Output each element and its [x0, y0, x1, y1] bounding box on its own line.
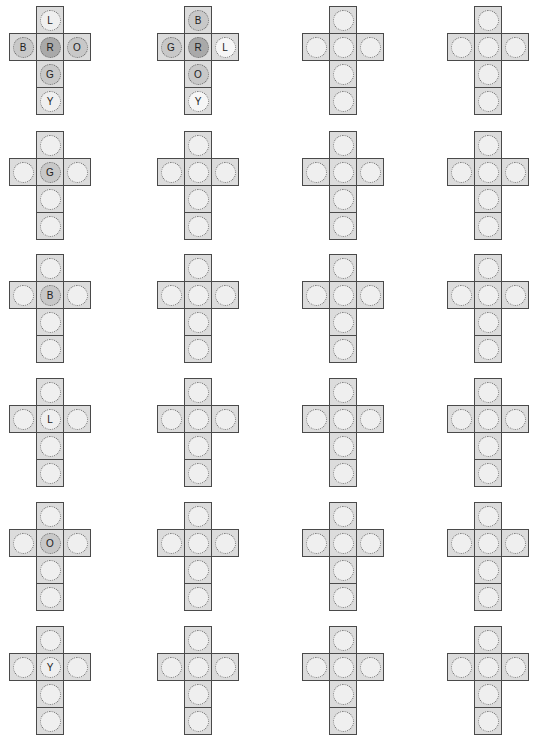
- face-circle: [333, 560, 354, 581]
- face-circle: [333, 312, 354, 333]
- net-face-left: [157, 529, 185, 557]
- net-face-top: [474, 254, 502, 282]
- net-face-below: [36, 680, 64, 708]
- cube-net: [157, 254, 241, 366]
- face-circle: Y: [188, 91, 209, 112]
- net-face-right: [63, 653, 91, 681]
- face-circle: [505, 285, 526, 306]
- face-circle: [161, 162, 182, 183]
- face-circle: [333, 64, 354, 85]
- net-face-below: [36, 308, 64, 336]
- face-circle: [188, 285, 209, 306]
- face-circle: [188, 436, 209, 457]
- net-face-center: [329, 653, 357, 681]
- face-circle: [478, 285, 499, 306]
- face-circle: [451, 409, 472, 430]
- net-face-right: [63, 529, 91, 557]
- face-circle: [333, 189, 354, 210]
- net-face-below: [329, 432, 357, 460]
- net-face-left: [157, 405, 185, 433]
- face-circle: [333, 382, 354, 403]
- net-face-bottom: [474, 459, 502, 487]
- net-face-center: [329, 281, 357, 309]
- net-face-bottom: [36, 707, 64, 735]
- cube-net: [447, 254, 531, 366]
- net-face-left: [9, 158, 37, 186]
- net-face-bottom: [36, 335, 64, 363]
- net-face-right: [211, 405, 239, 433]
- face-circle: [40, 382, 61, 403]
- face-circle: [13, 162, 34, 183]
- face-circle: [451, 533, 472, 554]
- net-face-left: [302, 405, 330, 433]
- net-face-left: [447, 405, 475, 433]
- net-face-bottom: [329, 335, 357, 363]
- net-face-top: [329, 378, 357, 406]
- face-circle: [306, 162, 327, 183]
- face-circle: [161, 533, 182, 554]
- cube-net: [302, 6, 386, 118]
- net-face-center: [329, 529, 357, 557]
- net-face-top: [184, 626, 212, 654]
- cube-net: LBROGY: [9, 6, 93, 118]
- net-face-center: [474, 405, 502, 433]
- cube-net: [302, 626, 386, 738]
- face-circle: [333, 463, 354, 484]
- net-face-below: [474, 60, 502, 88]
- net-face-right: [356, 158, 384, 186]
- face-circle: [188, 135, 209, 156]
- net-face-bottom: [36, 212, 64, 240]
- net-face-right: [63, 281, 91, 309]
- face-circle: [333, 91, 354, 112]
- cube-net: [447, 6, 531, 118]
- net-face-bottom: [184, 335, 212, 363]
- net-face-top: L: [36, 6, 64, 34]
- net-face-top: [474, 626, 502, 654]
- cube-net: [302, 254, 386, 366]
- net-face-right: [501, 653, 529, 681]
- face-circle: [478, 630, 499, 651]
- net-face-center: R: [184, 33, 212, 61]
- face-circle: [333, 711, 354, 732]
- face-circle: [188, 162, 209, 183]
- net-face-left: [447, 653, 475, 681]
- face-circle: [40, 587, 61, 608]
- net-face-left: [447, 158, 475, 186]
- face-circle: [360, 285, 381, 306]
- net-face-below: [184, 556, 212, 584]
- face-circle: [333, 409, 354, 430]
- net-face-right: [63, 158, 91, 186]
- net-face-left: [9, 281, 37, 309]
- face-circle: [188, 506, 209, 527]
- face-circle: [215, 162, 236, 183]
- face-circle: [161, 409, 182, 430]
- face-circle: [451, 657, 472, 678]
- face-circle: [478, 216, 499, 237]
- face-circle: [188, 216, 209, 237]
- face-circle: [215, 409, 236, 430]
- net-face-bottom: [184, 459, 212, 487]
- net-face-left: [302, 281, 330, 309]
- face-circle: [188, 684, 209, 705]
- net-face-below: G: [36, 60, 64, 88]
- net-face-top: [329, 626, 357, 654]
- face-circle: [478, 312, 499, 333]
- face-circle: [333, 10, 354, 31]
- face-circle: [188, 339, 209, 360]
- net-face-left: G: [157, 33, 185, 61]
- net-face-right: [211, 529, 239, 557]
- face-circle: [478, 339, 499, 360]
- net-face-top: [329, 131, 357, 159]
- face-circle: [451, 37, 472, 58]
- face-circle: [478, 506, 499, 527]
- net-face-left: [157, 158, 185, 186]
- face-circle: [40, 436, 61, 457]
- net-face-left: [302, 653, 330, 681]
- net-face-below: [36, 432, 64, 460]
- face-circle: [478, 409, 499, 430]
- net-face-center: [184, 158, 212, 186]
- net-face-below: [474, 556, 502, 584]
- face-circle: [333, 135, 354, 156]
- face-circle: [505, 657, 526, 678]
- net-face-center: O: [36, 529, 64, 557]
